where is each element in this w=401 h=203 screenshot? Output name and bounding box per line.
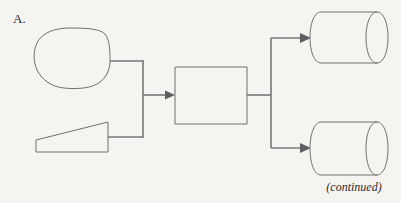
node-input-trapezoid[interactable] — [36, 122, 108, 152]
arrow-head-to-cylinder-top-icon — [300, 33, 311, 43]
arrow-head-to-cylinder-bottom-icon — [300, 143, 311, 153]
node-process-box[interactable] — [175, 67, 247, 124]
cylinder-top-body-shape — [310, 12, 388, 63]
trapezoid-shape — [36, 122, 108, 152]
figure-panel-a: A. — [0, 0, 401, 203]
node-output-cylinder-bottom[interactable] — [310, 122, 388, 175]
node-input-oval[interactable] — [34, 28, 110, 89]
process-rectangle-shape — [175, 67, 247, 124]
node-output-cylinder-top[interactable] — [310, 12, 388, 63]
continued-note: (continued) — [318, 180, 390, 194]
rounded-oval-shape — [34, 28, 110, 89]
cylinder-bottom-body-shape — [310, 122, 388, 175]
arrow-head-to-process-icon — [165, 91, 175, 100]
flow-diagram-canvas — [0, 0, 401, 203]
